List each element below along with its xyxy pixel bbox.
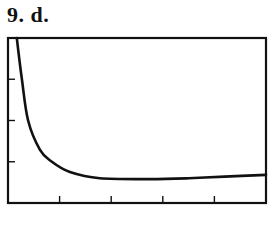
- line-chart: [0, 0, 272, 227]
- data-curve: [17, 38, 266, 179]
- axis-ticks: [8, 79, 214, 203]
